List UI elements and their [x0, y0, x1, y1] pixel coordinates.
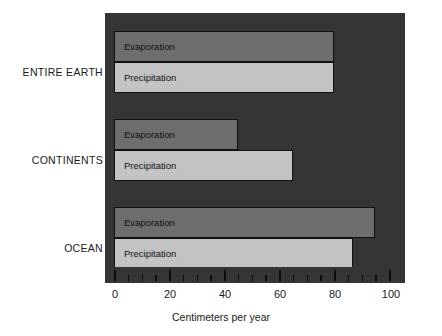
x-axis-minor-tick-75	[320, 275, 322, 281]
x-axis-tick-label-60: 60	[274, 289, 286, 300]
category-label-continents: CONTINENTS	[32, 155, 103, 166]
x-axis-tick-60	[279, 270, 281, 281]
x-axis-minor-tick-65	[293, 275, 295, 281]
x-axis-minor-tick-55	[265, 275, 267, 281]
category-axis-labels: ENTIRE EARTH CONTINENTS OCEAN	[0, 0, 103, 336]
plot-area: Evaporation Precipitation Evaporation Pr…	[105, 13, 405, 283]
x-axis-title: Centimeters per year	[0, 312, 442, 323]
bar-label-ocean-evaporation: Evaporation	[115, 218, 175, 228]
bar-continents-evaporation: Evaporation	[114, 119, 238, 150]
x-axis-tick-20	[169, 270, 171, 281]
x-axis-tick-label-80: 80	[329, 289, 341, 300]
x-axis-minor-tick-25	[183, 275, 185, 281]
category-label-entire-earth: ENTIRE EARTH	[23, 67, 103, 78]
category-label-ocean: OCEAN	[64, 243, 103, 254]
bar-label-entire-earth-evaporation: Evaporation	[115, 42, 175, 52]
bar-continents-precipitation: Precipitation	[114, 150, 293, 181]
bar-ocean-precipitation: Precipitation	[114, 238, 353, 269]
bar-label-continents-precipitation: Precipitation	[115, 161, 176, 171]
x-axis-tick-40	[224, 270, 226, 281]
bar-label-entire-earth-precipitation: Precipitation	[115, 73, 176, 83]
bar-entire-earth-precipitation: Precipitation	[114, 62, 334, 93]
bar-label-continents-evaporation: Evaporation	[115, 130, 175, 140]
x-axis-minor-tick-70	[307, 275, 309, 281]
bar-entire-earth-evaporation: Evaporation	[114, 31, 334, 62]
x-axis-minor-tick-50	[252, 275, 254, 281]
bar-ocean-evaporation: Evaporation	[114, 207, 375, 238]
bar-label-ocean-precipitation: Precipitation	[115, 249, 176, 259]
x-axis-minor-tick-85	[348, 275, 350, 281]
x-axis-minor-tick-90	[362, 275, 364, 281]
x-axis-minor-tick-15	[155, 275, 157, 281]
x-axis-minor-tick-5	[128, 275, 130, 281]
x-axis-tick-label-0: 0	[112, 289, 118, 300]
x-axis-tick-label-20: 20	[164, 289, 176, 300]
x-axis-minor-tick-10	[142, 275, 144, 281]
x-axis-tick-100	[389, 270, 391, 281]
bar-chart-figure: ENTIRE EARTH CONTINENTS OCEAN Evaporatio…	[0, 0, 442, 336]
x-axis-tick-labels: 0 20 40 60 80 100	[105, 289, 405, 305]
x-axis-minor-tick-95	[375, 275, 377, 281]
x-axis-tick-label-100: 100	[382, 289, 400, 300]
x-axis-minor-tick-45	[238, 275, 240, 281]
x-axis-minor-tick-30	[197, 275, 199, 281]
x-axis-tick-label-40: 40	[219, 289, 231, 300]
x-axis-band	[105, 267, 405, 283]
x-axis-minor-tick-35	[210, 275, 212, 281]
x-axis-tick-80	[334, 270, 336, 281]
x-axis-tick-0	[114, 270, 116, 281]
